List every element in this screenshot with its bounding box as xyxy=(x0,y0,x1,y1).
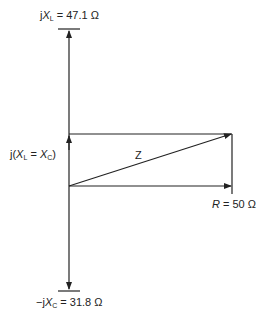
xc-label: −jXC = 31.8 Ω xyxy=(36,296,103,309)
r-label: R = 50 Ω xyxy=(212,198,256,210)
xl-label: jXL = 47.1 Ω xyxy=(40,9,99,22)
phasor-diagram xyxy=(0,0,267,326)
z-phasor-arrow xyxy=(69,134,231,186)
z-label: Z xyxy=(135,149,142,161)
net-reactance-label: j(XL = XC) xyxy=(10,148,56,161)
